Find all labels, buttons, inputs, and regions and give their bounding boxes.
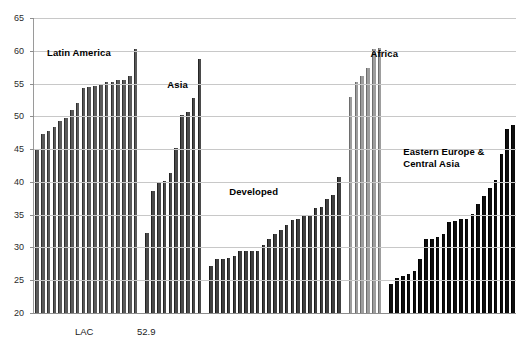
bar bbox=[215, 259, 219, 313]
bar bbox=[413, 271, 417, 313]
y-tick-50 bbox=[30, 116, 34, 117]
bar bbox=[186, 112, 190, 313]
y-tick-40 bbox=[30, 182, 34, 183]
y-tick-label-45: 45 bbox=[0, 145, 24, 154]
y-tick-label-40: 40 bbox=[0, 178, 24, 187]
bar bbox=[82, 88, 86, 314]
bar bbox=[227, 258, 231, 313]
bar bbox=[174, 148, 178, 313]
gridline-20 bbox=[34, 313, 516, 314]
group-label-africa: Africa bbox=[371, 48, 399, 60]
bar bbox=[401, 276, 405, 313]
bar bbox=[285, 225, 289, 314]
gridline-65 bbox=[34, 18, 516, 19]
group-label-latin-america: Latin America bbox=[47, 47, 111, 59]
bar bbox=[76, 103, 80, 313]
bar bbox=[291, 220, 295, 313]
bar bbox=[378, 48, 382, 313]
bar bbox=[418, 259, 422, 313]
x-annotation-lac: LAC bbox=[75, 327, 93, 337]
bar bbox=[99, 84, 103, 313]
group-label-developed: Developed bbox=[229, 186, 278, 198]
bar bbox=[169, 173, 173, 313]
bar bbox=[366, 68, 370, 313]
bar bbox=[279, 230, 283, 313]
bar bbox=[476, 204, 480, 313]
bar bbox=[209, 266, 213, 313]
bar bbox=[53, 127, 57, 313]
bar bbox=[465, 219, 469, 313]
gridline-35 bbox=[34, 215, 516, 216]
y-tick-25 bbox=[30, 280, 34, 281]
gridline-55 bbox=[34, 84, 516, 85]
bar bbox=[250, 251, 254, 313]
bar bbox=[314, 208, 318, 313]
y-tick-label-25: 25 bbox=[0, 276, 24, 285]
bar bbox=[64, 118, 68, 313]
y-tick-label-60: 60 bbox=[0, 47, 24, 56]
y-tick-label-20: 20 bbox=[0, 309, 24, 318]
bar bbox=[233, 256, 237, 313]
bar-chart: 20253035404550556065 Latin AmericaAsiaDe… bbox=[0, 0, 527, 347]
bar bbox=[360, 76, 364, 313]
y-tick-60 bbox=[30, 51, 34, 52]
bar bbox=[256, 251, 260, 313]
bar bbox=[128, 76, 132, 313]
bar bbox=[35, 149, 39, 313]
gridline-30 bbox=[34, 247, 516, 248]
y-tick-35 bbox=[30, 215, 34, 216]
bar bbox=[47, 131, 51, 313]
bar bbox=[505, 129, 509, 313]
bar bbox=[302, 215, 306, 313]
y-tick-label-50: 50 bbox=[0, 112, 24, 121]
bar bbox=[325, 199, 329, 313]
y-tick-20 bbox=[30, 313, 34, 314]
gridline-25 bbox=[34, 280, 516, 281]
bar bbox=[267, 239, 271, 313]
y-tick-label-65: 65 bbox=[0, 14, 24, 23]
bar bbox=[471, 214, 475, 313]
bar bbox=[442, 234, 446, 313]
bar bbox=[500, 154, 504, 313]
y-tick-65 bbox=[30, 18, 34, 19]
bar bbox=[93, 86, 97, 313]
bar bbox=[296, 219, 300, 313]
y-axis-labels: 20253035404550556065 bbox=[0, 0, 33, 347]
gridline-50 bbox=[34, 116, 516, 117]
bar bbox=[331, 195, 335, 313]
gridline-40 bbox=[34, 182, 516, 183]
bar bbox=[424, 239, 428, 313]
y-tick-label-35: 35 bbox=[0, 211, 24, 220]
bar bbox=[87, 87, 91, 313]
bar bbox=[244, 251, 248, 313]
x-annotation-52-9: 52.9 bbox=[137, 327, 156, 337]
bar bbox=[511, 125, 515, 313]
bar bbox=[221, 259, 225, 313]
bar bbox=[41, 134, 45, 313]
group-label-eastern-europe: Eastern Europe & Central Asia bbox=[403, 146, 484, 170]
bar bbox=[122, 80, 126, 313]
y-tick-label-55: 55 bbox=[0, 80, 24, 89]
bar bbox=[70, 110, 74, 313]
bar bbox=[459, 219, 463, 313]
bar bbox=[151, 191, 155, 313]
bar bbox=[447, 222, 451, 313]
bar bbox=[116, 80, 120, 313]
bar bbox=[238, 251, 242, 313]
bar bbox=[145, 233, 149, 313]
bar bbox=[453, 221, 457, 313]
bar bbox=[389, 284, 393, 313]
y-tick-55 bbox=[30, 84, 34, 85]
bar bbox=[337, 177, 341, 313]
bar bbox=[308, 215, 312, 313]
bar bbox=[273, 234, 277, 313]
bar bbox=[320, 207, 324, 313]
y-tick-label-30: 30 bbox=[0, 243, 24, 252]
bar bbox=[198, 59, 202, 313]
y-tick-30 bbox=[30, 247, 34, 248]
group-label-asia: Asia bbox=[167, 79, 187, 91]
y-tick-45 bbox=[30, 149, 34, 150]
bar bbox=[488, 188, 492, 313]
bar bbox=[430, 239, 434, 313]
bar bbox=[395, 278, 399, 313]
